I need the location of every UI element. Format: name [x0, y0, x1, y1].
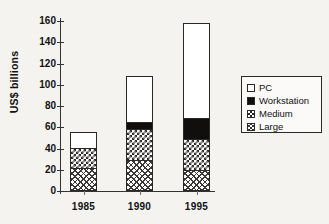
legend-label: Workstation — [259, 96, 309, 106]
x-axis-label-1995: 1995 — [167, 201, 227, 212]
y-axis-tick-mark — [57, 85, 64, 86]
x-axis-label-1985: 1985 — [54, 201, 114, 212]
legend-swatch-icon-workstation — [247, 97, 255, 105]
y-axis-tick-mark — [57, 191, 64, 192]
legend-label: PC — [259, 83, 272, 93]
bar-1985 — [70, 133, 97, 191]
chart-legend: PCWorkstationMediumLarge — [241, 76, 322, 133]
legend-label: Large — [259, 122, 283, 132]
x-axis-tick-mark — [84, 191, 85, 195]
legend-item-large[interactable]: Large — [247, 120, 321, 133]
x-axis-label-1990: 1990 — [110, 201, 170, 212]
y-axis-tick-mark — [57, 64, 64, 65]
bar-segment-workstation-1995 — [183, 118, 210, 140]
bar-1990 — [126, 77, 153, 191]
bar-chart: US$ billions 160140120100806040200 PCWor… — [0, 0, 329, 224]
bar-segment-large-1995 — [183, 170, 210, 191]
x-axis-tick-mark — [140, 191, 141, 195]
bar-segment-pc-1985 — [70, 132, 97, 149]
bar-segment-medium-1985 — [70, 148, 97, 169]
bar-segment-large-1990 — [126, 160, 153, 191]
legend-item-workstation[interactable]: Workstation — [247, 94, 321, 107]
bar-segment-large-1985 — [70, 168, 97, 191]
y-axis-tick-mark — [57, 106, 64, 107]
y-axis-tick-mark — [57, 170, 64, 171]
legend-swatch-icon-large — [247, 123, 255, 131]
bar-segment-workstation-1990 — [126, 122, 153, 130]
y-axis-tick-mark — [57, 149, 64, 150]
legend-item-pc[interactable]: PC — [247, 81, 321, 94]
bar-segment-medium-1995 — [183, 139, 210, 171]
y-axis-tick-mark — [57, 21, 64, 22]
bar-segment-pc-1995 — [183, 23, 210, 119]
bar-segment-pc-1990 — [126, 76, 153, 123]
bar-1995 — [183, 24, 210, 191]
y-axis-tick-mark — [57, 42, 64, 43]
legend-item-medium[interactable]: Medium — [247, 107, 321, 120]
bar-segment-medium-1990 — [126, 129, 153, 161]
legend-swatch-icon-pc — [247, 84, 255, 92]
legend-label: Medium — [259, 109, 293, 119]
x-axis-tick-mark — [197, 191, 198, 195]
legend-swatch-icon-medium — [247, 110, 255, 118]
y-axis-tick-mark — [57, 127, 64, 128]
